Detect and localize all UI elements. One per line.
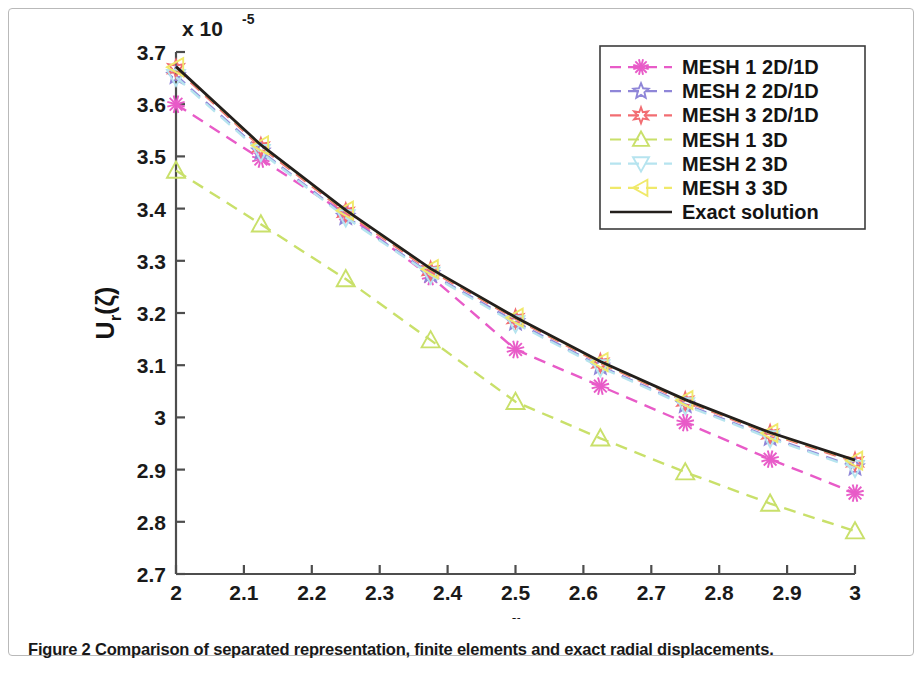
x-tick-label: 2.6 [569,581,598,604]
x-tick-label: 2.1 [229,581,259,604]
y-tick-label: 2.8 [137,511,167,534]
figure-page: 22.12.22.32.42.52.62.72.82.93 2.72.82.93… [0,0,922,683]
x-tick-label: 3 [849,581,861,604]
x-tick-label: 2.5 [501,581,531,604]
asterisk-marker [677,414,694,431]
legend-label: MESH 1 3D [682,129,788,151]
x-tick-label: 2.7 [637,581,666,604]
y-exponent-base: x 10 [182,17,223,40]
y-axis-title-text: Ur(ζ) [91,287,125,340]
y-axis-title: Ur(ζ) [91,287,125,340]
chart-legend[interactable]: MESH 1 2D/1DMESH 2 2D/1DMESH 3 2D/1DMESH… [600,46,865,229]
radial-displacement-chart: 22.12.22.32.42.52.62.72.82.93 2.72.82.93… [9,9,913,619]
asterisk-marker [761,450,778,467]
y-tick-label: 3.5 [137,145,167,168]
legend-label: Exact solution [682,201,819,223]
x-tick-label: 2.2 [297,581,326,604]
y-tick-label: 3.2 [137,302,166,325]
triangle-up-marker [676,463,694,479]
y-tick-label: 2.7 [137,563,166,586]
x-axis-tick-labels: 22.12.22.32.42.52.62.72.82.93 [170,581,861,604]
x-tick-label: 2 [170,581,182,604]
legend-label: MESH 2 3D [682,153,788,175]
y-tick-label: 3.4 [137,198,167,221]
y-tick-label: 3.1 [137,354,167,377]
y-tick-label: 3.7 [137,41,166,64]
asterisk-marker [846,484,863,501]
legend-label: MESH 1 2D/1D [682,56,819,78]
y-axis-exponent-label: x 10-5 [182,11,255,40]
x-tick-label: 2.9 [772,581,801,604]
x-axis-title: r [511,609,521,619]
x-tick-label: 2.8 [705,581,735,604]
x-tick-label: 2.4 [433,581,463,604]
y-exponent-power: -5 [242,11,255,27]
legend-label: MESH 2 2D/1D [682,80,819,102]
x-tick-label: 2.3 [365,581,394,604]
y-tick-label: 3.6 [137,93,166,116]
y-tick-label: 3 [154,406,166,429]
y-tick-label: 3.3 [137,250,166,273]
asterisk-marker [507,341,524,358]
figure-plot-area: 22.12.22.32.42.52.62.72.82.93 2.72.82.93… [9,9,913,619]
figure-caption: Figure 2 Comparison of separated represe… [28,640,908,659]
y-axis-tick-labels: 2.72.82.933.13.23.33.43.53.63.7 [137,41,167,586]
asterisk-marker [592,377,609,394]
legend-label: MESH 3 3D [682,177,788,199]
y-tick-label: 2.9 [137,459,166,482]
legend-label: MESH 3 2D/1D [682,104,819,126]
